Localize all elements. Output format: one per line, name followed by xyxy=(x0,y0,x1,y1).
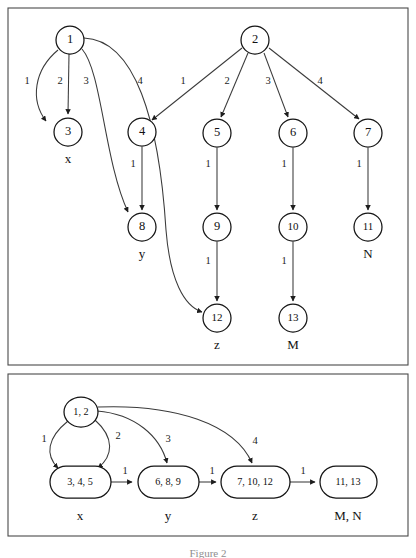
bottom-terminal-label-y: y xyxy=(165,508,172,523)
node-merged-1-2-label: 1, 2 xyxy=(73,406,88,417)
node-3[interactable]: 3 xyxy=(54,118,82,146)
node-6[interactable]: 6 xyxy=(279,119,307,147)
node-11[interactable]: 11 xyxy=(354,213,382,241)
node-10-label: 10 xyxy=(288,220,300,232)
node-3-label: 3 xyxy=(65,124,71,138)
node-merged-11-13[interactable]: 11, 13 xyxy=(320,466,377,498)
edge-label-6-10: 1 xyxy=(281,158,286,169)
node-7[interactable]: 7 xyxy=(354,119,382,147)
terminal-label-y: y xyxy=(139,246,146,261)
edge-label-m71012-m1113: 1 xyxy=(300,465,305,476)
node-2[interactable]: 2 xyxy=(241,26,269,54)
edge-label-m12-m689: 3 xyxy=(165,433,170,444)
node-5[interactable]: 5 xyxy=(203,119,231,147)
bottom-terminal-label-mn: M, N xyxy=(334,508,362,523)
figure-caption: Figure 2 xyxy=(190,547,227,558)
node-7-label: 7 xyxy=(365,125,371,139)
node-4-label: 4 xyxy=(139,124,146,138)
node-merged-7-10-12[interactable]: 7, 10, 12 xyxy=(221,466,290,498)
terminal-label-z: z xyxy=(214,337,220,352)
node-4[interactable]: 4 xyxy=(128,118,156,146)
edge-label-1-8: 3 xyxy=(83,75,88,86)
edge-label-1-3-a: 1 xyxy=(24,75,29,86)
node-1[interactable]: 1 xyxy=(56,26,84,54)
edge-label-m12-m71012: 4 xyxy=(252,435,258,446)
edge-label-m12-m345-b: 2 xyxy=(115,430,120,441)
edge-label-m12-m345-a: 1 xyxy=(41,433,46,444)
edge-label-2-7: 4 xyxy=(317,75,323,86)
node-8[interactable]: 8 xyxy=(128,213,156,241)
node-merged-3-4-5-label: 3, 4, 5 xyxy=(67,476,92,487)
node-1-label: 1 xyxy=(67,32,73,46)
terminal-label-n: N xyxy=(363,246,373,261)
node-5-label: 5 xyxy=(214,125,220,139)
bottom-terminal-label-z: z xyxy=(252,508,258,523)
node-merged-7-10-12-label: 7, 10, 12 xyxy=(237,476,273,487)
node-8-label: 8 xyxy=(139,219,145,233)
node-9[interactable]: 9 xyxy=(203,213,231,241)
node-12[interactable]: 12 xyxy=(203,304,231,332)
node-13-label: 13 xyxy=(288,311,300,323)
node-11-label: 11 xyxy=(363,220,374,232)
node-merged-6-8-9[interactable]: 6, 8, 9 xyxy=(138,466,199,498)
terminal-label-m: M xyxy=(287,337,299,352)
edge-label-2-6: 3 xyxy=(265,75,270,86)
edge-label-m689-m71012: 1 xyxy=(209,465,214,476)
bottom-terminal-label-x: x xyxy=(77,508,84,523)
edge-label-2-5: 2 xyxy=(224,75,229,86)
edge-label-m345-m689: 1 xyxy=(122,465,127,476)
figure-container: 1 2 3 4 5 6 7 xyxy=(0,0,416,558)
edge-label-5-9: 1 xyxy=(205,158,210,169)
edge-label-2-4: 1 xyxy=(180,75,185,86)
node-13[interactable]: 13 xyxy=(279,304,307,332)
node-merged-11-13-label: 11, 13 xyxy=(335,476,360,487)
edge-label-1-12: 4 xyxy=(137,75,143,86)
node-6-label: 6 xyxy=(290,125,296,139)
node-9-label: 9 xyxy=(214,219,220,233)
node-12-label: 12 xyxy=(212,311,223,323)
terminal-label-x: x xyxy=(65,151,72,166)
edge-label-9-12: 1 xyxy=(205,255,210,266)
node-merged-3-4-5[interactable]: 3, 4, 5 xyxy=(50,466,111,498)
figure-svg: 1 2 3 4 5 6 7 xyxy=(0,0,416,558)
node-10[interactable]: 10 xyxy=(279,213,307,241)
edge-label-10-13: 1 xyxy=(281,255,286,266)
node-merged-1-2[interactable]: 1, 2 xyxy=(64,397,98,427)
edge-label-7-11: 1 xyxy=(356,158,361,169)
node-2-label: 2 xyxy=(252,32,258,46)
edge-label-1-3-b: 2 xyxy=(57,75,62,86)
edge-label-4-8: 1 xyxy=(130,158,135,169)
node-merged-6-8-9-label: 6, 8, 9 xyxy=(155,476,180,487)
